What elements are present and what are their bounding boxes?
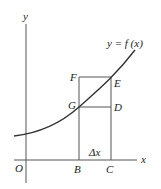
- point-G-label: G: [68, 99, 76, 111]
- point-D-label: D: [113, 101, 122, 113]
- point-B-label: B: [74, 163, 81, 175]
- function-diagram: y x O y = f (x) B C D E F G Δx: [0, 0, 161, 189]
- function-curve: [14, 50, 135, 136]
- point-E-label: E: [113, 77, 121, 89]
- origin-label: O: [15, 162, 23, 174]
- delta-x-label: Δx: [88, 146, 100, 158]
- point-F-label: F: [69, 71, 77, 83]
- curve-label: y = f (x): [106, 37, 143, 50]
- point-C-label: C: [106, 163, 114, 175]
- y-axis-label: y: [22, 10, 28, 22]
- x-axis-label: x: [140, 153, 146, 165]
